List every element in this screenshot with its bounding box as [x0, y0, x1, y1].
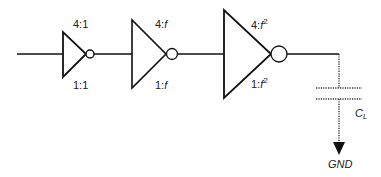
inverter-1-nmos-label: 1:1 [73, 79, 88, 91]
inverter-1-triangle [63, 32, 86, 77]
ground-arrow-icon [333, 142, 345, 155]
ground-label: GND [328, 158, 353, 170]
inverter-1-bubble [86, 50, 94, 58]
load-capacitor [316, 54, 362, 142]
inverter-2-nmos-label: 1:f [155, 79, 168, 91]
diagram-canvas: 4:1 1:1 4:f 1:f 4:f2 1:f2 CL GND [0, 0, 381, 177]
inverter-chain-diagram: 4:1 1:1 4:f 1:f 4:f2 1:f2 CL GND [0, 0, 381, 177]
inverter-2-pmos-label: 4:f [155, 18, 168, 30]
load-cap-label: CL [355, 107, 367, 121]
inverter-3-nmos-label: 1:f2 [251, 76, 268, 90]
inverter-1-pmos-label: 4:1 [73, 18, 88, 30]
inverter-2: 4:f 1:f [132, 18, 178, 91]
inverter-2-triangle [132, 20, 166, 88]
inverter-3-bubble [271, 46, 287, 62]
inverter-3: 4:f2 1:f2 [224, 10, 287, 98]
inverter-3-pmos-label: 4:f2 [251, 17, 268, 31]
inverter-1: 4:1 1:1 [63, 18, 94, 91]
inverter-2-bubble [167, 49, 178, 60]
